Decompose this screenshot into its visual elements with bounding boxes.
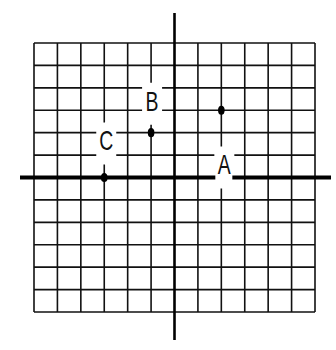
point-a-label: A	[218, 150, 231, 180]
axes	[20, 13, 331, 340]
point-c-marker	[101, 173, 108, 182]
coordinate-grid-figure: ABC	[0, 0, 336, 350]
coordinate-plane: ABC	[0, 0, 336, 350]
points: ABC	[99, 87, 231, 183]
point-c-label: C	[99, 126, 113, 156]
point-b-marker	[148, 128, 155, 137]
point-a-marker	[218, 106, 225, 115]
point-b-label: B	[146, 87, 159, 117]
